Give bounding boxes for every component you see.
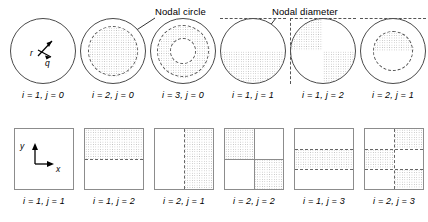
nodal-line-h1 xyxy=(295,149,353,150)
plate-outline xyxy=(364,128,424,190)
antinode-region xyxy=(184,129,213,189)
antinode-region-b xyxy=(254,159,283,189)
antinode-region xyxy=(85,129,143,159)
angular-axis-label: q xyxy=(45,58,50,68)
plate-outline xyxy=(154,128,214,190)
nodal-line-h1 xyxy=(85,159,143,160)
y-axis-label: y xyxy=(20,141,24,151)
nodal-diameter-2 xyxy=(290,18,357,84)
nodal-circle-1 xyxy=(88,26,138,76)
nodal-diameter-1 xyxy=(360,18,426,85)
nodal-diameter-1 xyxy=(220,18,286,85)
figure-canvas: Nodal circle Nodal diameter r q i = 1, j… xyxy=(0,0,428,222)
nodal-line-v1 xyxy=(254,129,255,189)
plate-outline xyxy=(224,128,284,190)
nodal-line-v1 xyxy=(394,129,395,189)
mode-caption: i = 2, j = 3 xyxy=(352,196,428,206)
radial-axis-label: r xyxy=(30,48,33,58)
plate-outline xyxy=(84,128,144,190)
nodal-circle-2 xyxy=(170,38,196,64)
nodal-line-v1 xyxy=(184,129,185,189)
antinode-region-a xyxy=(225,129,254,159)
antinode-region-b xyxy=(365,149,394,169)
x-axis-label: x xyxy=(56,164,60,174)
plate-outline xyxy=(294,128,354,190)
mode-caption: i = 2, j = 1 xyxy=(351,90,428,100)
antinode-region-a xyxy=(394,129,423,149)
antinode-region xyxy=(295,149,353,169)
nodal-line-h2 xyxy=(295,169,353,170)
antinode-region-c xyxy=(394,169,423,189)
